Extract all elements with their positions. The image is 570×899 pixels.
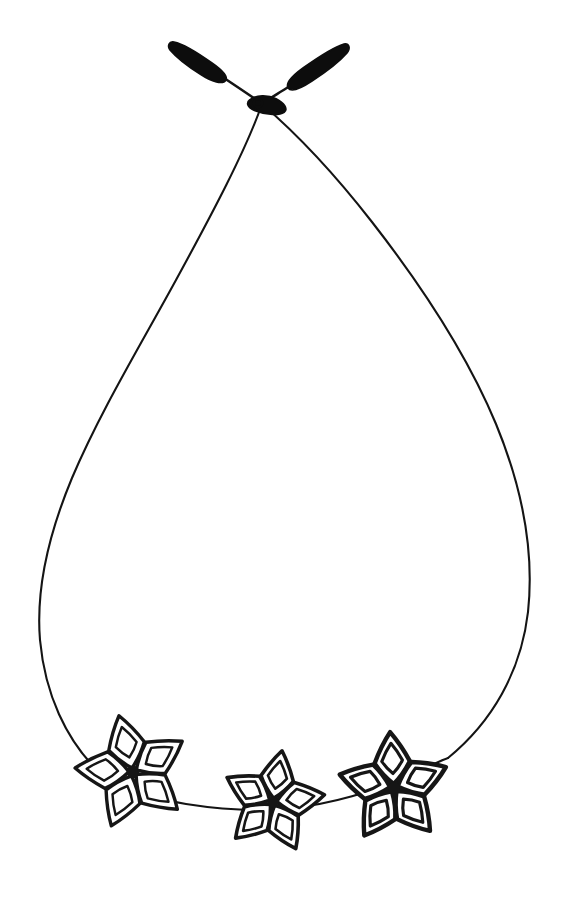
flower-bead-left-center xyxy=(127,766,140,779)
necklace-illustration xyxy=(0,0,570,899)
flower-bead-right-center xyxy=(388,782,400,794)
flower-bead-middle-center xyxy=(268,797,279,808)
drawing-canvas xyxy=(0,0,570,899)
